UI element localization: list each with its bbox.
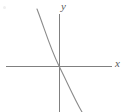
scan-speck-artifact [3, 6, 6, 9]
coordinate-plane [0, 0, 125, 112]
x-axis-label: x [115, 58, 120, 69]
y-axis-label: y [61, 1, 66, 12]
graph-figure: y x [0, 0, 125, 112]
